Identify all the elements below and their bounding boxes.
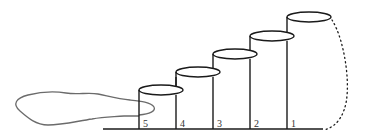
cylinder-label-2: 2 [254,118,259,129]
cylinder-5: 5 [139,85,183,129]
cylinder-label-5: 5 [143,118,148,129]
cylinder-3: 3 [213,49,257,129]
cylinder-label-4: 4 [180,118,185,129]
cylinder-staircase-diagram: 5 4 3 2 1 [0,0,365,136]
dotted-arc [324,20,347,130]
cylinder-label-3: 3 [217,118,222,129]
irregular-blob [16,92,155,125]
cylinder-1: 1 [287,12,331,129]
cylinder-label-1: 1 [291,118,296,129]
cylinder-4: 4 [176,67,220,129]
cylinder-2: 2 [250,31,294,129]
